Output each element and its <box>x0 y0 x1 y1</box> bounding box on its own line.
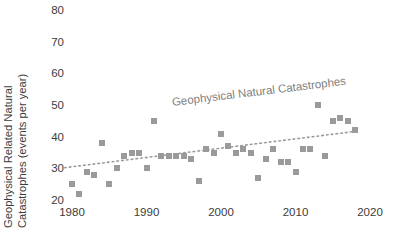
data-point <box>106 181 112 187</box>
data-point <box>129 150 135 156</box>
data-point <box>352 127 358 133</box>
data-point <box>240 146 246 152</box>
data-point <box>181 153 187 159</box>
data-point <box>330 118 336 124</box>
data-point <box>196 178 202 184</box>
data-point <box>173 153 179 159</box>
data-point <box>270 146 276 152</box>
data-point <box>144 165 150 171</box>
data-point <box>166 153 172 159</box>
data-point <box>188 156 194 162</box>
data-point <box>114 165 120 171</box>
data-point <box>218 131 224 137</box>
data-point <box>337 115 343 121</box>
data-point <box>225 143 231 149</box>
data-point <box>203 146 209 152</box>
plot-area <box>0 0 398 236</box>
data-point <box>315 102 321 108</box>
data-point <box>211 150 217 156</box>
data-point <box>99 140 105 146</box>
geophysical-catastrophes-chart: Geophysical Related Natural Catastrophes… <box>0 0 398 236</box>
data-point <box>76 191 82 197</box>
data-point <box>84 169 90 175</box>
data-point <box>263 156 269 162</box>
data-point <box>158 153 164 159</box>
data-point <box>121 153 127 159</box>
data-point <box>345 118 351 124</box>
data-point <box>322 153 328 159</box>
data-point <box>285 159 291 165</box>
data-point <box>293 169 299 175</box>
data-point <box>300 146 306 152</box>
data-point <box>91 172 97 178</box>
data-point <box>307 146 313 152</box>
data-point <box>233 150 239 156</box>
data-point <box>136 150 142 156</box>
data-point <box>69 181 75 187</box>
data-point <box>278 159 284 165</box>
data-point <box>248 150 254 156</box>
data-point <box>255 175 261 181</box>
data-point <box>151 118 157 124</box>
